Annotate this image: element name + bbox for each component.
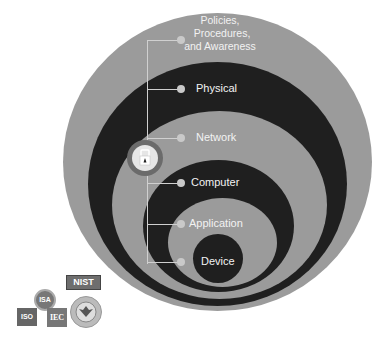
iec-logo: IEC xyxy=(47,308,67,327)
dhs-seal-icon xyxy=(70,296,102,328)
connector-device xyxy=(147,262,181,263)
connector-application xyxy=(147,224,181,225)
label-application: Application xyxy=(189,217,243,229)
bullet-computer xyxy=(177,179,185,187)
bullet-device xyxy=(177,258,185,266)
connector-line-bottom xyxy=(147,176,148,264)
bullet-network xyxy=(177,134,185,142)
padlock-icon xyxy=(127,140,163,176)
connector-line-top xyxy=(147,40,148,140)
connector-computer xyxy=(147,183,181,184)
nist-logo: NIST xyxy=(66,275,101,290)
connector-physical xyxy=(147,89,181,90)
bullet-physical xyxy=(177,85,185,93)
connector-network xyxy=(147,138,181,139)
label-policies: Policies, Procedures, and Awareness xyxy=(160,14,280,53)
bullet-application xyxy=(177,220,185,228)
label-physical: Physical xyxy=(196,82,237,94)
label-computer: Computer xyxy=(191,176,239,188)
label-device: Device xyxy=(201,255,235,267)
iso-logo: ISO xyxy=(17,308,37,326)
label-network: Network xyxy=(196,131,236,143)
